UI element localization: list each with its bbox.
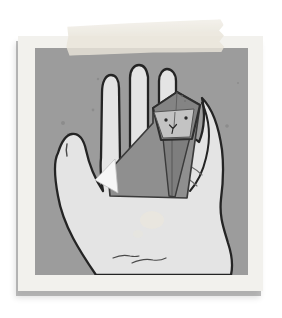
cat-right-eye <box>184 116 187 119</box>
tape-strip <box>66 19 225 56</box>
thumb-nail-line <box>66 144 67 156</box>
page-background: { "page": { "background": "#ffffff" }, "… <box>0 0 282 318</box>
illustration-canvas <box>35 48 248 275</box>
polaroid-photo <box>18 36 263 291</box>
cat-left-eye <box>164 118 167 121</box>
